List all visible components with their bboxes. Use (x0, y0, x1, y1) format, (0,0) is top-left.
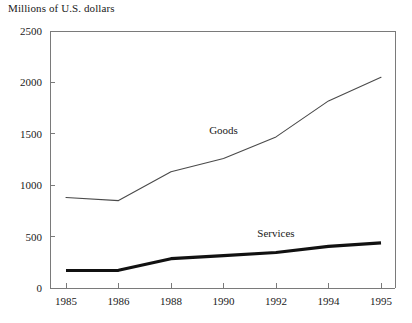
x-axis-ticks: 1985198619881990199219941995 (55, 283, 393, 307)
y-tick-label: 1500 (20, 128, 43, 140)
series-line-services (66, 243, 381, 271)
series-line-goods (66, 77, 381, 200)
series-annotation-services: Services (257, 227, 294, 239)
line-chart-plot: 05001000150020002500 1985198619881990199… (0, 0, 412, 323)
data-series-group (66, 77, 381, 270)
x-tick-label: 1985 (55, 295, 78, 307)
axis-top-right (50, 31, 395, 288)
series-annotation-goods: Goods (209, 124, 238, 136)
x-tick-label: 1988 (160, 295, 183, 307)
series-annotations: GoodsServices (209, 124, 295, 239)
y-tick-label: 1000 (20, 179, 43, 191)
x-tick-label: 1992 (265, 295, 287, 307)
axes-group (50, 31, 395, 288)
y-tick-label: 2000 (20, 76, 43, 88)
x-tick-label: 1990 (213, 295, 236, 307)
y-tick-label: 2500 (20, 25, 43, 37)
y-tick-label: 0 (37, 282, 43, 294)
y-tick-label: 500 (26, 231, 43, 243)
x-tick-label: 1994 (318, 295, 341, 307)
x-tick-label: 1995 (370, 295, 393, 307)
x-tick-label: 1986 (108, 295, 131, 307)
axis-left-bottom (50, 31, 395, 288)
chart-figure: Millions of U.S. dollars 050010001500200… (0, 0, 412, 323)
